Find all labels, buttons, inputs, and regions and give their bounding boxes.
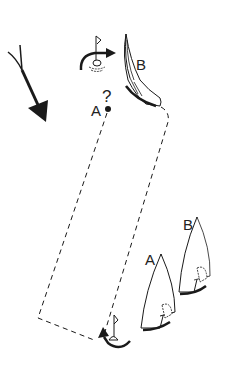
boat-b-top-label: B [136,57,146,72]
boat-a-lower-label: A [145,252,155,267]
question-mark-label: ? [102,88,111,105]
wind-arrow-icon [8,45,48,122]
race-diagram [0,0,229,370]
lower-mark-icon [109,315,118,340]
upper-rounding-arrow-icon [81,48,116,70]
position-a-dot [105,106,111,112]
boat-b-lower-label: B [183,217,193,232]
position-a-label: A [91,103,101,118]
